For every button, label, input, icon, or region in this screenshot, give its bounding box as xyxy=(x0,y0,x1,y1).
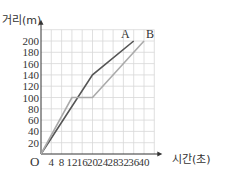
y-tick-label: 20 xyxy=(28,137,40,149)
y-tick-label: 80 xyxy=(28,103,40,115)
x-axis-arrow-icon xyxy=(157,152,162,157)
distance-time-chart: 4812162024283236402040608010012014016018… xyxy=(0,0,236,176)
series-lines: AB xyxy=(41,27,154,154)
y-tick-label: 60 xyxy=(28,114,40,126)
x-tick-label: 40 xyxy=(139,156,151,168)
series-label-b: B xyxy=(146,27,154,41)
x-tick-label: 4 xyxy=(49,156,55,168)
series-label-a: A xyxy=(121,27,130,41)
y-tick-label: 120 xyxy=(23,80,40,92)
y-tick-label: 200 xyxy=(23,35,40,47)
y-tick-label: 180 xyxy=(23,46,40,58)
y-tick-label: 100 xyxy=(23,92,40,104)
y-tick-label: 140 xyxy=(23,69,40,81)
y-axis-label: 거리(m) xyxy=(2,14,41,27)
x-axis-label: 시간(초) xyxy=(172,153,211,166)
origin-label: O xyxy=(30,154,39,169)
y-tick-label: 40 xyxy=(28,125,40,137)
x-tick-label: 8 xyxy=(59,156,65,168)
y-tick-label: 160 xyxy=(23,58,40,70)
